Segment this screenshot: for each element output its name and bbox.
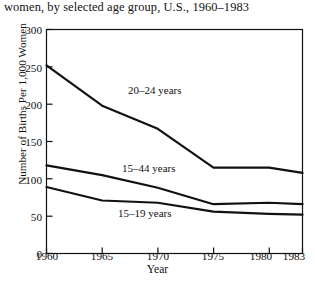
plot-area <box>0 0 315 281</box>
series-label: 20–24 years <box>128 84 181 96</box>
series-label: 15–19 years <box>118 207 171 219</box>
series-line <box>47 187 303 215</box>
y-axis-ticks <box>47 30 53 254</box>
series-label: 15–44 years <box>122 162 175 174</box>
x-axis-ticks <box>47 248 303 254</box>
chart-figure: women, by selected age group, U.S., 1960… <box>0 0 315 281</box>
series-line <box>47 65 303 173</box>
